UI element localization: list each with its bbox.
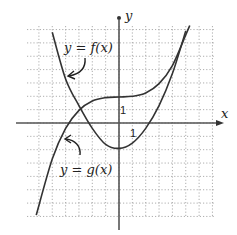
grid bbox=[27, 26, 215, 218]
x-tick-label-1: 1 bbox=[130, 127, 136, 139]
g-annotation: y = g(x) bbox=[59, 135, 112, 177]
graph: x y 1 1 y = f(x) y = g(x) bbox=[0, 0, 237, 235]
y-tick-label-1: 1 bbox=[120, 104, 126, 116]
f-label: y = f(x) bbox=[63, 40, 113, 55]
f-annotation: y = f(x) bbox=[63, 40, 113, 79]
g-label: y = g(x) bbox=[59, 162, 112, 177]
y-axis-arrow bbox=[117, 16, 121, 20]
x-axis-label: x bbox=[221, 106, 229, 121]
y-axis-label: y bbox=[124, 8, 133, 23]
curve-g bbox=[36, 26, 190, 216]
axes bbox=[16, 16, 224, 230]
